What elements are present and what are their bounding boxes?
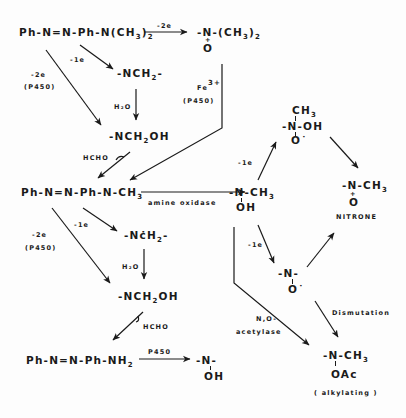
- arrow-hydroxyl-nitroxideoh: [258, 142, 276, 180]
- acetoxy-label: ( alkylating ): [314, 390, 378, 397]
- acetoxy-oac: OAc: [331, 369, 358, 380]
- label-dab-radical-1e: -1e: [70, 57, 85, 64]
- pathway-diagram: Ph-N=N-Ph-N(CH3)2 -2e -N-(CH3)2 + O -1e …: [0, 0, 406, 418]
- label-fe-p450: (P450): [183, 98, 214, 105]
- label-radical-h2o: H₂O: [114, 104, 131, 111]
- ab-hydroxylamine-top: -N-: [196, 355, 217, 366]
- label-radical-mid-h2o: H₂O: [122, 264, 139, 271]
- ab-molecule: Ph-N=N-Ph-NH2: [26, 355, 134, 366]
- nch2-radical-top: -NCH2-: [117, 68, 163, 79]
- nitrone-oxygen: O: [349, 197, 359, 208]
- nch2-radical-mid: -NċH2-: [124, 230, 169, 241]
- label-dismutation: Dismutation: [332, 310, 390, 317]
- carbinolamine-mid: -NCH2OH: [118, 291, 179, 302]
- dab-molecule: Ph-N=N-Ph-N(CH3)2: [19, 27, 154, 38]
- label-dab-carbinol-2e: -2e: [31, 72, 46, 79]
- arrow-nitroxide-acetoxy: [315, 301, 338, 337]
- nitrone-label: NITRONE: [336, 214, 377, 221]
- bond-oac: [335, 361, 336, 366]
- label-acetylase-1: N,O-: [256, 316, 277, 323]
- mab-molecule: Ph-N=N-Ph-N-CH3: [21, 187, 143, 198]
- nitroxide-oxygen: O˙: [288, 284, 305, 295]
- carbinolamine-top: -NCH2OH: [109, 131, 170, 142]
- hydroxylamine-top: -N-CH3: [229, 187, 275, 198]
- label-amine-oxidase: amine oxidase: [148, 200, 217, 207]
- label-fe: Fe3+: [197, 85, 221, 92]
- nitrone-top: -N-CH3: [342, 180, 388, 191]
- label-acetylase-2: acetylase: [236, 329, 282, 336]
- label-dab-carbinol-p450: (P450): [24, 84, 55, 91]
- label-hydroxyl-nitroxideoh-1e: -1e: [238, 160, 253, 167]
- label-mab-carbinol-2e: -2e: [32, 232, 47, 239]
- label-dab-noxide-2e: -2e: [157, 23, 172, 30]
- hydroxylamine-oh: OH: [236, 202, 256, 213]
- label-carbinol-mid-hcho: HCHO: [143, 324, 169, 331]
- nitroxide-top: -N-: [278, 268, 299, 279]
- arrow-nitroxide-nitrone: [307, 233, 334, 267]
- label-mab-carbinol-p450: (P450): [25, 245, 56, 252]
- nitroxide-oh-oxygen: O˙: [291, 135, 308, 146]
- ab-hydroxylamine-oh: OH: [204, 371, 224, 382]
- label-carbinol-hcho: HCHO: [83, 155, 109, 162]
- nitroxide-oh-ch3: CH3: [292, 105, 317, 116]
- label-hydroxyl-nitroxide-1e: -1e: [248, 242, 263, 249]
- arrow-nitroxideoh-nitrone: [330, 137, 358, 168]
- label-ab-p450: P450: [148, 349, 171, 356]
- acetoxy-top: -N-CH3: [323, 350, 369, 361]
- n-oxide-oxygen: O: [203, 43, 213, 54]
- arrow-mab-carbinol: [52, 208, 110, 283]
- nitroxide-oh-mid: -N-OH: [282, 121, 323, 132]
- label-mab-radical-1e: -1e: [74, 222, 89, 229]
